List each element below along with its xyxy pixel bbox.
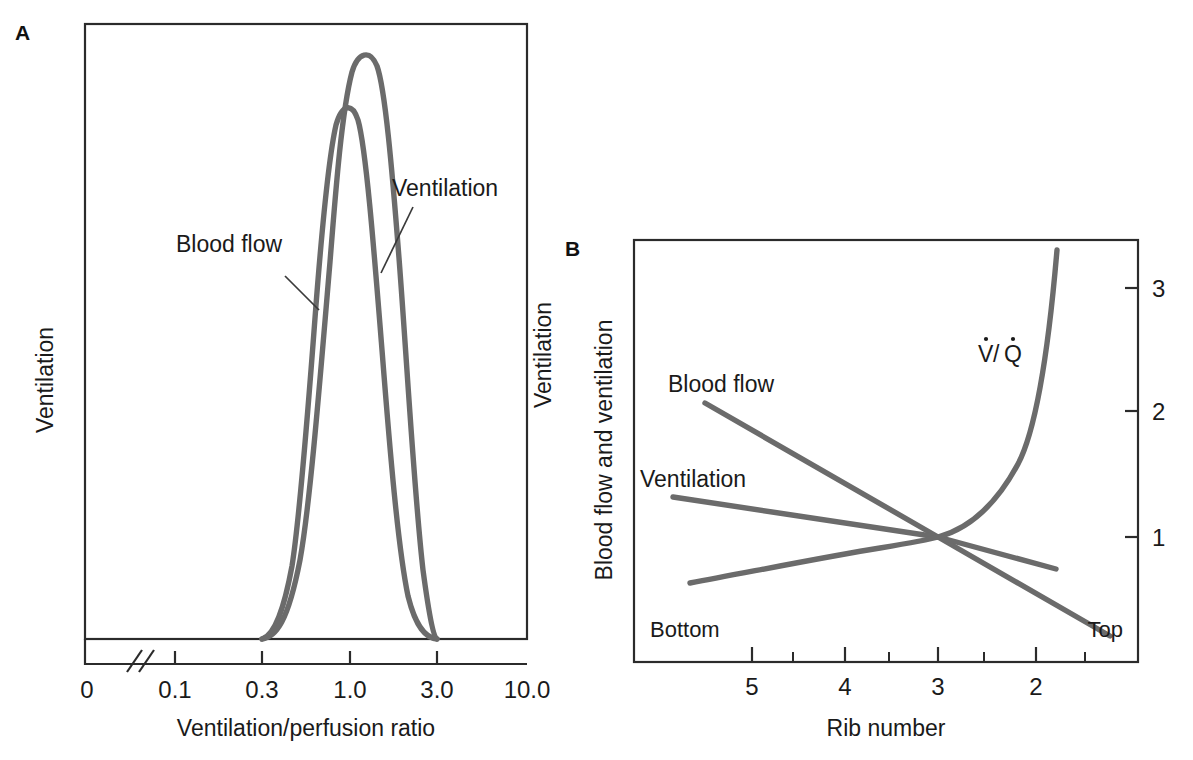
panel-b-label-blood-flow: Blood flow xyxy=(668,371,775,397)
vq-denominator-dot-icon xyxy=(1011,337,1015,341)
panel-a-xtick-0-1: 0.1 xyxy=(158,676,191,703)
panel-b-y-axis-title-outer: Ventilation xyxy=(530,302,556,408)
panel-b-xtick-5: 5 xyxy=(745,673,758,700)
panel-b-right-axis-ticks xyxy=(1125,288,1138,537)
panel-b-curve-blood-flow xyxy=(705,403,1110,636)
panel-a-axis-break-icon xyxy=(127,650,154,672)
panel-b-letter: B xyxy=(565,237,580,260)
panel-b-xtick-4: 4 xyxy=(838,673,851,700)
panel-a-curve-ventilation xyxy=(262,55,437,639)
panel-b: B Ventilation Blood flow and ventilation… xyxy=(530,237,1165,741)
panel-b-ytick-3: 3 xyxy=(1152,275,1165,302)
panel-a-letter: A xyxy=(15,21,30,44)
panel-a-plot-frame xyxy=(85,24,527,639)
panel-a-xtick-10-0: 10.0 xyxy=(504,676,551,703)
panel-b-label-vq: V / Q xyxy=(978,337,1022,367)
panel-b-end-label-bottom: Bottom xyxy=(650,617,720,642)
panel-a: A 0 0.1 0.3 1.0 3.0 10.0 xyxy=(15,21,550,741)
panel-a-label-blood-flow: Blood flow xyxy=(176,231,283,257)
panel-a-xtick-1-0: 1.0 xyxy=(333,676,366,703)
panel-b-plot-frame xyxy=(634,240,1138,662)
panel-a-x-axis-line xyxy=(85,639,527,664)
panel-b-y-axis-title: Blood flow and ventilation xyxy=(591,320,617,581)
panel-b-end-label-top: Top xyxy=(1088,617,1123,642)
panel-b-curve-vq xyxy=(690,250,1057,583)
panel-b-x-ticks xyxy=(752,647,1085,662)
panel-b-xtick-2: 2 xyxy=(1029,673,1042,700)
panel-b-label-ventilation: Ventilation xyxy=(640,466,746,492)
panel-b-x-axis-title: Rib number xyxy=(827,715,946,741)
figure-svg: A 0 0.1 0.3 1.0 3.0 10.0 xyxy=(0,0,1193,760)
panel-a-xtick-0-3: 0.3 xyxy=(245,676,278,703)
panel-b-curve-ventilation xyxy=(673,497,1056,569)
panel-a-xtick-0: 0 xyxy=(80,676,93,703)
figure-container: A 0 0.1 0.3 1.0 3.0 10.0 xyxy=(0,0,1193,760)
panel-a-x-axis-title: Ventilation/perfusion ratio xyxy=(177,715,435,741)
panel-a-leader-blood-flow xyxy=(285,276,319,310)
panel-a-x-ticks xyxy=(175,651,437,664)
panel-a-y-axis-title: Ventilation xyxy=(32,327,58,433)
panel-b-ytick-2: 2 xyxy=(1152,398,1165,425)
panel-a-label-ventilation: Ventilation xyxy=(392,175,498,201)
panel-b-xtick-3: 3 xyxy=(931,673,944,700)
panel-b-label-vq-numerator: V xyxy=(978,341,994,367)
vq-numerator-dot-icon xyxy=(984,337,988,341)
panel-a-xtick-3-0: 3.0 xyxy=(420,676,453,703)
panel-b-label-vq-denominator: Q xyxy=(1004,341,1022,367)
panel-b-label-vq-separator: / xyxy=(993,341,1000,367)
panel-b-ytick-1: 1 xyxy=(1152,524,1165,551)
